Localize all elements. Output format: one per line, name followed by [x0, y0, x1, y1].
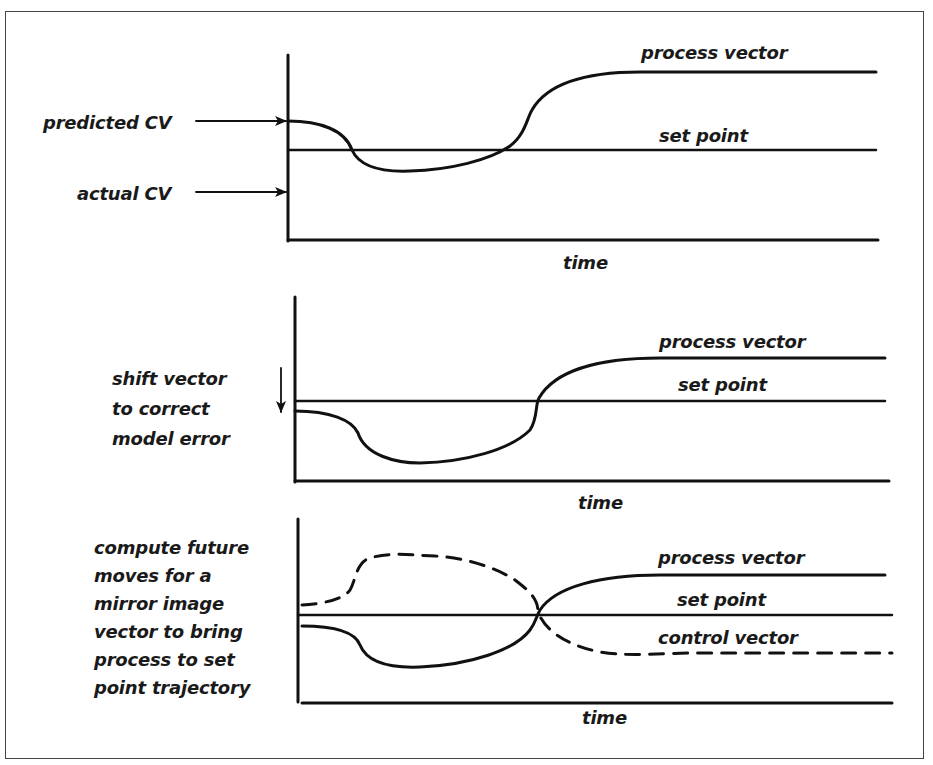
panel-1-set-point-label: set point — [659, 123, 748, 148]
panel-3-set-point-label: set point — [677, 587, 766, 612]
panel-1-graph — [196, 55, 878, 241]
panel-1-process-vector-label: process vector — [641, 40, 787, 65]
panel-2-annotation: shift vector to correct model error — [112, 364, 230, 454]
panel-3-control-vector-label: control vector — [658, 625, 798, 650]
panel-1-process-vector-curve — [288, 72, 876, 171]
panel-3-x-axis-label: time — [582, 705, 627, 730]
panel-2-set-point-label: set point — [678, 372, 767, 397]
panel-2-process-vector-label: process vector — [659, 329, 805, 354]
panel-3-annotation: compute future moves for a mirror image … — [94, 534, 250, 702]
panel-2-x-axis-label: time — [578, 490, 623, 515]
predicted-cv-label: predicted CV — [43, 110, 171, 135]
panel-3-process-vector-label: process vector — [658, 545, 804, 570]
panel-1-x-axis-label: time — [563, 250, 608, 275]
panel-2-process-vector-curve — [295, 358, 885, 463]
panel-2-graph — [281, 297, 889, 482]
actual-cv-label: actual CV — [77, 181, 171, 206]
